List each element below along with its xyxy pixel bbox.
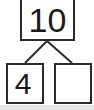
total-value: 10 — [29, 3, 67, 37]
connector-line-right — [47, 41, 72, 63]
total-box[interactable]: 10 — [20, 0, 75, 41]
number-bond-diagram: 10 4 — [0, 0, 94, 110]
part-box-right[interactable] — [54, 63, 92, 104]
connector-line-left — [25, 41, 47, 63]
bottom-divider — [0, 105, 94, 110]
part-box-left[interactable]: 4 — [6, 63, 44, 104]
part-left-value: 4 — [15, 69, 32, 99]
